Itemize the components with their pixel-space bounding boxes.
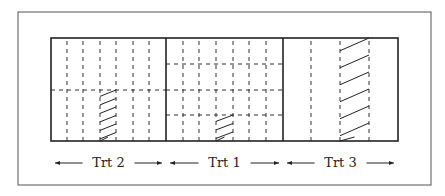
hatched-plot (100, 90, 116, 141)
plot-grid (51, 38, 369, 141)
hatched-plot (340, 38, 369, 141)
treatment-label: Trt 1 (208, 155, 241, 170)
field-plot-diagram: Trt 2Trt 1Trt 3 (0, 0, 445, 196)
treatment-label: Trt 3 (324, 155, 357, 170)
arrowhead-left-icon (287, 161, 292, 165)
hatched-plot (216, 115, 233, 141)
arrowhead-left-icon (170, 161, 175, 165)
treatment-label: Trt 2 (92, 155, 125, 170)
arrowhead-right-icon (389, 161, 394, 165)
treatment-labels: Trt 2Trt 1Trt 3 (55, 155, 394, 170)
arrowhead-right-icon (157, 161, 162, 165)
arrowhead-right-icon (274, 161, 279, 165)
arrowhead-left-icon (55, 161, 60, 165)
